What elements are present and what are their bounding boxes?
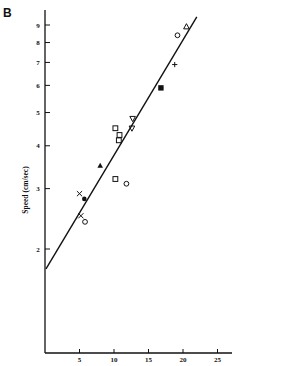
- open-square-marker: [116, 138, 121, 143]
- axes: 23456789510152025: [36, 10, 232, 364]
- y-tick-label: 3: [36, 185, 40, 193]
- x-tick-label: 5: [78, 356, 82, 364]
- open-circle-marker: [175, 33, 180, 38]
- x-marker: [78, 213, 83, 218]
- open-circle-marker: [83, 219, 88, 224]
- x-tick-label: 10: [111, 356, 119, 364]
- y-tick-label: 4: [36, 142, 40, 150]
- y-tick-label: 6: [36, 82, 40, 90]
- y-tick-label: 2: [36, 246, 40, 254]
- filled-triangle-marker: [97, 163, 103, 168]
- x-tick-label: 25: [214, 356, 222, 364]
- open-square-marker: [113, 177, 118, 182]
- y-tick-label: 7: [36, 59, 40, 67]
- y-tick-label: 9: [36, 22, 40, 30]
- y-tick-label: 5: [36, 109, 40, 117]
- plus-marker: [172, 62, 177, 67]
- scatter-chart: 23456789510152025 Speed (cm/sec): [0, 0, 304, 366]
- open-triangle-marker: [184, 24, 190, 29]
- filled-circle-marker: [82, 197, 87, 202]
- open-square-marker: [113, 126, 118, 131]
- x-tick-label: 20: [180, 356, 188, 364]
- open-circle-marker: [124, 181, 129, 186]
- open-square-marker: [117, 133, 122, 138]
- y-axis-label: Speed (cm/sec): [21, 166, 30, 214]
- x-marker: [77, 191, 82, 196]
- filled-square-marker: [158, 85, 163, 90]
- x-tick-label: 15: [145, 356, 153, 364]
- open-down-triangle-marker: [129, 126, 135, 131]
- y-tick-label: 8: [36, 39, 40, 47]
